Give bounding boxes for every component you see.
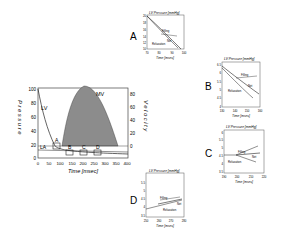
svg-text:3.5: 3.5 — [141, 214, 145, 218]
svg-text:6: 6 — [219, 71, 221, 75]
svg-text:4.5: 4.5 — [141, 197, 145, 201]
svg-text:130: 130 — [220, 109, 225, 113]
mv-label: MV — [96, 91, 105, 97]
svg-text:14: 14 — [143, 35, 147, 39]
inset-c-x-label: Time [msec] — [235, 180, 253, 184]
svg-text:200: 200 — [79, 161, 87, 166]
svg-text:70: 70 — [145, 51, 149, 55]
lv-label: LV — [41, 105, 48, 111]
svg-text:260: 260 — [157, 219, 162, 223]
inset-b-x-ticks: 130 140 150 160 — [220, 109, 263, 113]
svg-text:210: 210 — [249, 175, 254, 179]
right-y-ticks: 0 20 40 60 80 — [130, 92, 136, 149]
left-y-ticks: 0 20 40 60 80 100 — [28, 87, 36, 161]
x-axis-label: Time [msec] — [68, 168, 98, 174]
svg-text:100: 100 — [56, 161, 64, 166]
inset-d-x-label: Time [msec] — [156, 224, 174, 228]
inset-a-panel-label: A — [130, 31, 137, 42]
inset-a-title: LV Pressure [mmHg] — [149, 11, 179, 15]
svg-text:250: 250 — [90, 161, 98, 166]
box-label-c: C — [82, 144, 86, 150]
svg-text:0: 0 — [130, 144, 133, 149]
svg-text:12: 12 — [143, 41, 147, 45]
svg-text:5: 5 — [221, 146, 223, 150]
svg-text:220: 220 — [262, 175, 267, 179]
inset-c: C LV Pressure [mmHg] Filling Net Relaxat… — [205, 125, 267, 184]
svg-text:Net: Net — [167, 39, 172, 43]
svg-text:4.5: 4.5 — [219, 154, 223, 158]
inset-a: A LV Pressure [mmHg] Filling Net Relaxat… — [130, 11, 187, 60]
inset-d-y-ticks: 5.5 5 4.5 4 3.5 — [141, 181, 145, 218]
svg-text:280: 280 — [182, 219, 187, 223]
svg-text:40: 40 — [31, 129, 37, 134]
svg-text:4: 4 — [221, 162, 223, 166]
inset-b-panel-label: B — [205, 81, 212, 92]
inset-b-y-ticks: 6.5 6 5.5 5 4.5 4 — [217, 63, 221, 109]
svg-text:Relaxation: Relaxation — [228, 160, 242, 164]
svg-text:4: 4 — [143, 205, 145, 209]
inset-c-x-ticks: 190 200 210 220 — [222, 175, 267, 179]
svg-text:60: 60 — [130, 105, 136, 110]
svg-text:Filling: Filling — [241, 73, 249, 77]
mv-velocity-area — [62, 86, 118, 146]
svg-text:Net: Net — [248, 84, 253, 88]
svg-text:Relaxation: Relaxation — [228, 89, 242, 93]
inset-a-legend: Filling Net Relaxation — [152, 29, 172, 46]
la-label: LA — [40, 144, 47, 150]
svg-text:20: 20 — [143, 14, 147, 18]
svg-text:5: 5 — [219, 88, 221, 92]
svg-text:Relaxation: Relaxation — [152, 42, 166, 46]
svg-text:0: 0 — [37, 161, 40, 166]
svg-text:18: 18 — [143, 21, 147, 25]
box-label-d: D — [96, 144, 100, 150]
svg-text:270: 270 — [169, 219, 174, 223]
svg-text:Filling: Filling — [162, 29, 170, 33]
svg-text:200: 200 — [235, 175, 240, 179]
svg-text:40: 40 — [130, 118, 136, 123]
svg-text:90: 90 — [170, 51, 174, 55]
inset-b-legend: Filling Net Relaxation — [228, 73, 253, 93]
inset-d-panel-label: D — [130, 195, 137, 206]
svg-text:16: 16 — [143, 28, 147, 32]
svg-text:100: 100 — [182, 51, 187, 55]
inset-a-y-ticks: 20 18 16 14 12 10 — [143, 14, 147, 51]
inset-b-x-label: Time [msec] — [232, 114, 250, 118]
svg-text:60: 60 — [31, 115, 37, 120]
svg-text:5.5: 5.5 — [219, 138, 223, 142]
inset-c-panel-label: C — [205, 148, 212, 159]
svg-text:Net: Net — [177, 202, 182, 206]
svg-text:350: 350 — [112, 161, 120, 166]
svg-text:Filling: Filling — [160, 196, 168, 200]
inset-c-y-ticks: 6 5.5 5 4.5 4 3.5 — [219, 131, 223, 174]
svg-text:3.5: 3.5 — [219, 170, 223, 174]
svg-text:400: 400 — [123, 161, 131, 166]
inset-b-title: LV Pressure [mmHg] — [224, 57, 254, 61]
svg-text:20: 20 — [31, 143, 37, 148]
inset-b: B LV Pressure [mmHg] Filling Net Relaxat… — [205, 57, 263, 118]
svg-text:5.5: 5.5 — [141, 181, 145, 185]
svg-text:150: 150 — [68, 161, 76, 166]
svg-text:5.5: 5.5 — [217, 80, 221, 84]
svg-text:Filling: Filling — [238, 150, 246, 154]
svg-text:150: 150 — [245, 109, 250, 113]
main-chart: A B C D LV LA MV 0 20 40 60 80 100 0 20 … — [17, 86, 149, 174]
svg-text:50: 50 — [47, 161, 52, 166]
inset-a-x-ticks: 70 80 90 100 — [145, 51, 186, 55]
svg-text:6.5: 6.5 — [217, 63, 221, 67]
box-label-a: A — [55, 137, 59, 143]
inset-d: D LV Pressure [mmHg] Filling Net Relaxat… — [130, 169, 187, 228]
svg-text:80: 80 — [31, 101, 37, 106]
figure-canvas: A B C D LV LA MV 0 20 40 60 80 100 0 20 … — [0, 0, 281, 248]
inset-d-x-ticks: 250 260 270 280 — [144, 219, 187, 223]
svg-text:6: 6 — [221, 131, 223, 135]
svg-text:20: 20 — [130, 131, 136, 136]
x-ticks: 0 50 100 150 200 250 300 350 400 — [37, 161, 131, 166]
svg-text:Net: Net — [252, 155, 257, 159]
svg-text:160: 160 — [258, 109, 263, 113]
inset-d-title: LV Pressure [mmHg] — [149, 169, 179, 173]
svg-text:80: 80 — [130, 92, 136, 97]
y-right-axis-label: Velocity — [143, 100, 149, 133]
inset-a-filling-curve — [161, 34, 177, 36]
svg-text:250: 250 — [144, 219, 149, 223]
svg-text:100: 100 — [28, 87, 36, 92]
